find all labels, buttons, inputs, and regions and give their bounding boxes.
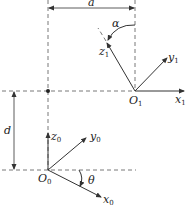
frame-diagram: a d α z1 y1 x1 O1 θ z0 y0 x0 O0 (0, 0, 186, 209)
z1-extension (98, 28, 106, 41)
reference-point (46, 89, 50, 93)
theta-arc (79, 170, 82, 186)
dimension-d: d (4, 92, 14, 169)
label-x0: x0 (103, 193, 114, 207)
label-O0: O0 (38, 172, 52, 186)
label-z1: z1 (98, 45, 109, 59)
label-a: a (88, 0, 95, 9)
label-theta: θ (88, 174, 95, 187)
label-O1: O1 (129, 94, 143, 108)
label-y1: y1 (167, 51, 179, 65)
label-alpha: α (112, 17, 120, 30)
label-z0: z0 (50, 130, 61, 144)
y1-axis (135, 58, 167, 91)
label-y0: y0 (89, 130, 101, 144)
label-d: d (4, 124, 11, 137)
label-x1: x1 (175, 93, 186, 107)
dimension-a: a (49, 0, 134, 9)
z1-axis (107, 43, 135, 91)
